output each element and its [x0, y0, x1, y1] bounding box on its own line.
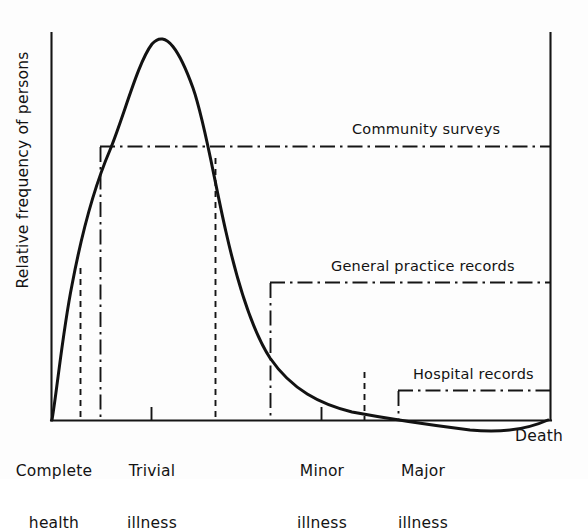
x-label-trivial-illness-line1: Trivial — [109, 463, 195, 480]
x-label-minor-illness: Minor illness — [281, 428, 363, 532]
x-label-major-illness-line1: Major — [382, 463, 464, 480]
x-label-complete-health-line1: Complete — [8, 463, 100, 480]
x-label-death: Death — [503, 428, 575, 445]
series-label-hospital-records: Hospital records — [413, 367, 534, 382]
x-label-minor-illness-line1: Minor — [281, 463, 363, 480]
y-axis-label: Relative frequency of persons — [14, 0, 32, 340]
x-label-complete-health: Complete health — [8, 428, 100, 532]
x-label-major-illness: Major illness — [382, 428, 464, 532]
x-label-major-illness-line2: illness — [382, 515, 464, 532]
x-label-complete-health-line2: health — [8, 515, 100, 532]
series-label-general-practice-records: General practice records — [331, 259, 515, 274]
x-label-trivial-illness-line2: illness — [109, 515, 195, 532]
series-label-community-surveys: Community surveys — [352, 122, 500, 137]
x-label-minor-illness-line2: illness — [281, 515, 363, 532]
x-label-trivial-illness: Trivial illness — [109, 428, 195, 532]
